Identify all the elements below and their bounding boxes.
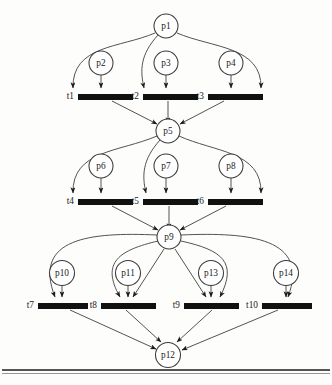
place-label-p1: p1	[161, 21, 171, 31]
transition-label-t6: t6	[197, 196, 205, 206]
place-p14[interactable]: p14	[274, 261, 299, 286]
place-label-p7: p7	[161, 161, 171, 171]
place-p1[interactable]: p1	[154, 14, 178, 38]
transition-bar-t6[interactable]	[208, 199, 263, 205]
place-label-p10: p10	[55, 268, 69, 278]
transition-bar-t10[interactable]	[262, 303, 312, 309]
arc-t7-to-p12	[70, 310, 156, 349]
transition-bar-t8[interactable]	[101, 303, 156, 309]
arc-t3-to-p5	[180, 101, 224, 124]
arc-t8-to-p12	[126, 310, 161, 342]
place-label-p13: p13	[204, 268, 218, 278]
place-label-p8: p8	[226, 161, 236, 171]
place-p7[interactable]: p7	[154, 154, 178, 178]
transition-label-t3: t3	[197, 91, 205, 101]
arc-t10-to-p12	[182, 310, 278, 350]
transition-label-t1: t1	[67, 91, 75, 101]
arc-t4-to-p9	[112, 206, 158, 230]
transition-t4[interactable]: t4	[67, 196, 133, 206]
transition-label-t2: t2	[132, 91, 140, 101]
transition-t6[interactable]: t6	[197, 196, 263, 206]
transition-bar-t9[interactable]	[184, 303, 239, 309]
place-label-p4: p4	[226, 58, 236, 68]
arc-t9-to-p12	[177, 310, 212, 342]
place-p4[interactable]: p4	[219, 51, 243, 75]
place-label-p11: p11	[121, 268, 135, 278]
petri-net-canvas: t1t2t3t4t5t6t7t8t9t10 p1p2p3p4p5p6p7p8p9…	[0, 0, 332, 385]
transition-t8[interactable]: t8	[90, 300, 156, 310]
place-label-p5: p5	[163, 126, 173, 136]
place-label-p9: p9	[164, 232, 174, 242]
place-p12[interactable]: p12	[156, 343, 181, 368]
place-p9[interactable]: p9	[157, 225, 181, 249]
transition-label-t7: t7	[27, 300, 35, 310]
transition-t5[interactable]: t5	[132, 196, 198, 206]
transition-bar-t4[interactable]	[78, 199, 133, 205]
transition-label-t9: t9	[173, 300, 181, 310]
transition-label-t8: t8	[90, 300, 98, 310]
place-p11[interactable]: p11	[116, 261, 141, 286]
place-label-p14: p14	[279, 268, 293, 278]
place-p3[interactable]: p3	[154, 51, 178, 75]
transition-bar-t7[interactable]	[38, 303, 88, 309]
transition-t1[interactable]: t1	[67, 91, 133, 101]
arc-t1-to-p5	[112, 101, 157, 124]
place-p13[interactable]: p13	[199, 261, 224, 286]
place-p10[interactable]: p10	[50, 261, 75, 286]
place-p6[interactable]: p6	[89, 154, 113, 178]
transition-t3[interactable]: t3	[197, 91, 263, 101]
place-p2[interactable]: p2	[89, 51, 113, 75]
place-p5[interactable]: p5	[156, 119, 180, 143]
arc-t6-to-p9	[180, 206, 226, 230]
transition-label-t4: t4	[67, 196, 75, 206]
place-p8[interactable]: p8	[219, 154, 243, 178]
transition-bar-t2[interactable]	[143, 94, 198, 100]
place-label-p6: p6	[96, 161, 106, 171]
transition-bar-t1[interactable]	[78, 94, 133, 100]
transition-t2[interactable]: t2	[132, 91, 198, 101]
transition-t10[interactable]: t10	[246, 300, 312, 310]
petri-net-diagram: t1t2t3t4t5t6t7t8t9t10 p1p2p3p4p5p6p7p8p9…	[0, 0, 332, 385]
place-label-p12: p12	[161, 350, 175, 360]
transition-label-t5: t5	[132, 196, 140, 206]
place-label-p3: p3	[161, 58, 171, 68]
transition-t7[interactable]: t7	[27, 300, 88, 310]
transition-label-t10: t10	[246, 300, 258, 310]
transition-bar-t3[interactable]	[208, 94, 263, 100]
transition-t9[interactable]: t9	[173, 300, 239, 310]
place-label-p2: p2	[96, 58, 106, 68]
transition-bar-t5[interactable]	[143, 199, 198, 205]
